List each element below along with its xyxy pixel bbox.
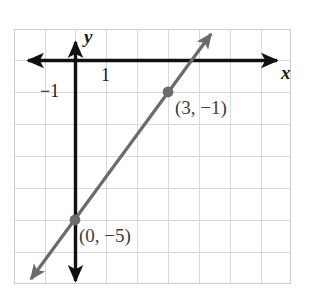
y-axis-label: y	[84, 27, 92, 46]
data-point-3-neg1	[163, 87, 174, 98]
x-axis-label: x	[281, 63, 291, 82]
graph-canvas	[0, 0, 312, 305]
data-point-0-neg5	[70, 215, 81, 226]
point-label-3-neg1: (3, −1)	[175, 98, 227, 117]
y-axis-tick-label: −1	[40, 82, 59, 100]
point-label-0-neg5: (0, −5)	[79, 226, 131, 245]
x-axis-tick-label: 1	[101, 66, 110, 84]
coordinate-plane-figure: y x 1 −1 (3, −1) (0, −5)	[0, 0, 312, 305]
